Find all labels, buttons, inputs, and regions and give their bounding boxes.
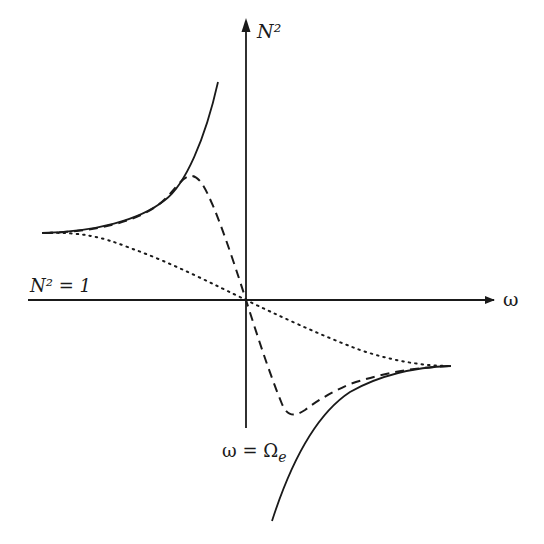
vertical-label-subscript: e <box>278 449 286 465</box>
n-squared-axis-arrow-icon <box>242 18 251 32</box>
x-axis-label: ω <box>503 288 519 310</box>
y-axis-label: N² <box>256 20 281 42</box>
vertical-line-label: ω = Ωe <box>222 440 286 465</box>
solid-curve-lower <box>272 366 451 521</box>
vertical-label-main: ω = Ω <box>222 440 278 461</box>
dispersion-figure: N² ω N² = 1 ω = Ωe <box>0 0 544 544</box>
solid-curve-upper <box>42 82 218 233</box>
dashed-curve <box>44 176 451 415</box>
horizontal-line-label: N² = 1 <box>29 275 91 296</box>
